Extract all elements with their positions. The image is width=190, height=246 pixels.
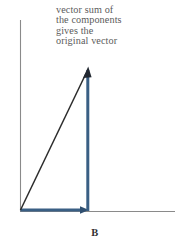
resultant-vector-arrowhead [83,67,92,79]
resultant-vector-shaft [21,73,87,210]
annotation-line-4: original vector [56,36,186,46]
figure-panel: vector sum of the components gives the o… [0,0,190,246]
annotation-note: vector sum of the components gives the o… [56,5,186,47]
panel-label: B [0,227,190,238]
